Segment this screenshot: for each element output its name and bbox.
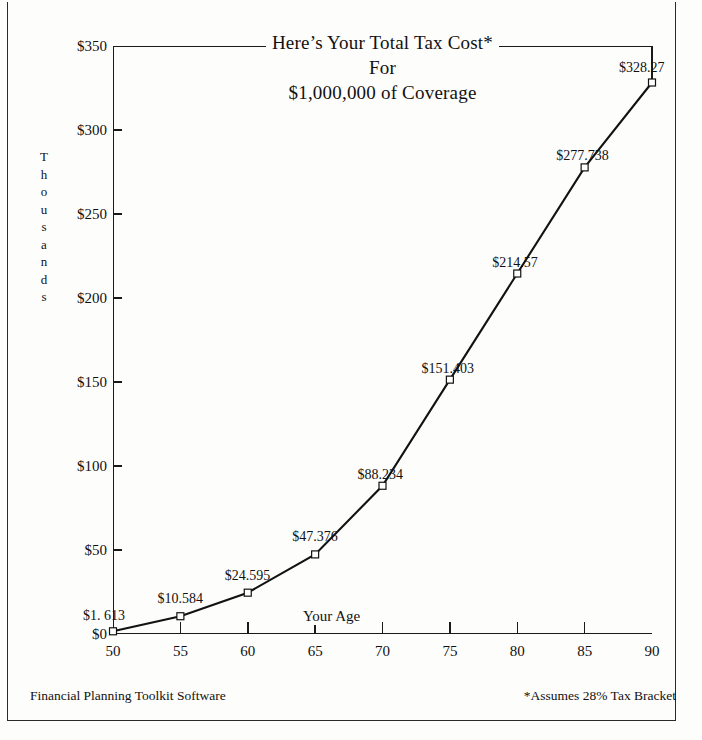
chart-page: Here’s Your Total Tax Cost* For $1,000,0… [0,0,702,740]
footer-left-text: Financial Planning Toolkit Software [30,688,226,704]
x-axis-tick-mark [449,622,451,634]
chart-title-block: Here’s Your Total Tax Cost* For $1,000,0… [113,30,652,105]
chart-title-line-3: $1,000,000 of Coverage [113,80,652,105]
chart-title-line-1: Here’s Your Total Tax Cost* [266,30,499,55]
data-point-label: $24.595 [225,569,271,583]
x-axis-tick-mark [382,622,384,634]
x-axis-tick-label: 75 [430,644,470,659]
x-axis-tick-label-group: 505560657075808590 [0,0,702,740]
x-axis-tick-label: 90 [632,644,672,659]
x-axis-tick-mark [584,622,586,634]
x-axis-tick-label: 65 [295,644,335,659]
chart-title-line-2: For [113,55,652,80]
data-point-label: $47.376 [292,530,338,544]
x-axis-tick-label: 85 [565,644,605,659]
data-point-label: $88.234 [358,468,404,482]
x-axis-tick-label: 70 [363,644,403,659]
data-point-label: $214.57 [492,256,538,270]
x-axis-title: Your Age [300,608,363,625]
x-axis-tick-mark [247,622,249,634]
x-axis-tick-label: 50 [93,644,133,659]
x-axis-tick-label: 80 [497,644,537,659]
data-point-label: $277.738 [556,149,609,163]
x-axis-tick-label: 60 [228,644,268,659]
x-axis-tick-mark [180,622,182,634]
data-point-label: $10.584 [157,592,203,606]
data-point-label: $151.403 [421,362,474,376]
data-point-label: $1. 613 [83,609,125,623]
x-axis-tick-label: 55 [160,644,200,659]
footer-right-text: *Assumes 28% Tax Bracket [524,688,676,704]
x-axis-tick-mark [517,622,519,634]
